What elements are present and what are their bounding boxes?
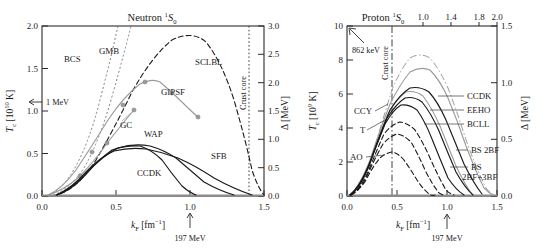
neutron-xtick-1: 0.5: [110, 202, 122, 212]
proton-ytick-right-0: 0.0: [501, 191, 513, 201]
curve-label-wap: WAP: [144, 129, 163, 139]
neutron-ytick-left-2: 1.0: [27, 106, 39, 116]
proton-ylabel-right: Δ [MeV]: [520, 96, 530, 130]
neutron-xaxis: 0.0 0.5 1.0 1.5: [36, 190, 270, 212]
curve-label-ao: AO: [350, 152, 363, 162]
neutron-ytick-left-1: 0.5: [27, 149, 39, 159]
neutron-xtick-0: 0.0: [36, 202, 48, 212]
gipsf-marker: [90, 150, 94, 154]
curve-label-gmb: GMB: [99, 46, 119, 56]
curve-gmb: [53, 26, 131, 195]
proton-left-label-group: CCY T AO: [350, 104, 388, 162]
proton-ytick-left-5: 10: [334, 21, 344, 31]
neutron-yaxis-right: 0.0 0.5 1.0 1.5 2.0 2.5 3.0: [258, 21, 280, 201]
gc-marker: [105, 141, 109, 145]
proton-toptick-0: 1.0: [417, 12, 429, 22]
neutron-ytick-left-4: 2.0: [27, 21, 39, 31]
curve-label-ccdk: CCDK: [137, 168, 162, 178]
proton-ytick-right-1: 0.5: [501, 134, 513, 144]
neutron-yaxis-left: 0.0 0.5 1.0 1.5 2.0: [27, 21, 48, 201]
neutron-ytick-right-2: 1.0: [268, 134, 280, 144]
proton-crust-core-label: Crust core: [381, 46, 390, 80]
proton-top-axis: 1.0 1.4 1.8 2.0: [417, 12, 503, 26]
curve-label-ccy: CCY: [354, 106, 373, 116]
proton-fermi-energy-label: 197 MeV: [431, 234, 462, 243]
neutron-ytick-left-0: 0.0: [27, 191, 39, 201]
proton-right-label-group: CCDK EEHO BCLL BS 2BF BS 2BF+3BF: [424, 91, 499, 182]
neutron-ytick-right-0: 0.0: [268, 191, 280, 201]
neutron-ylabel-right: Δ [MeV]: [280, 96, 290, 130]
proton-gap-energy-label: 862 keV: [352, 46, 380, 55]
curve-label-bcll: BCLL: [467, 119, 489, 129]
proton-ytick-right-3: 1.5: [501, 21, 513, 31]
neutron-ytick-left-3: 1.5: [27, 64, 39, 74]
neutron-crust-core-label: Crust core: [239, 76, 248, 110]
gipsf-marker: [196, 115, 200, 119]
proton-xtick-3: 1.5: [491, 202, 503, 212]
proton-plot-svg: Proton 1S0 1.0 1.4 1.8 2.0: [290, 0, 554, 249]
neutron-ytick-right-4: 2.0: [268, 78, 280, 88]
proton-ytick-right-2: 1.0: [501, 78, 513, 88]
curve-label-bs-2bf: BS 2BF: [471, 145, 499, 155]
proton-ytick-left-4: 8: [339, 55, 344, 65]
gipsf-marker: [121, 103, 125, 107]
proton-ylabel-left: Tc [109 K]: [306, 92, 320, 131]
curve-sclbl: [60, 35, 264, 195]
proton-panel-title: Proton 1S0: [362, 11, 405, 25]
neutron-ylabel-left: Tc [1010 K]: [3, 90, 17, 132]
neutron-xlabel: kF [fm−1]: [131, 218, 165, 232]
curve-label-gipsf: GIPSF: [161, 87, 185, 97]
curve-label-eeho: EEHO: [467, 105, 490, 115]
proton-ytick-left-2: 4: [339, 123, 344, 133]
proton-ytick-left-3: 6: [339, 89, 344, 99]
neutron-ytick-right-6: 3.0: [268, 21, 280, 31]
curve-label-gc: GC: [120, 120, 132, 130]
proton-xtick-0: 0.0: [341, 202, 353, 212]
neutron-one-mev-label: 1 MeV: [46, 98, 69, 107]
neutron-ytick-right-1: 0.5: [268, 163, 280, 173]
neutron-fermi-energy-label: 197 MeV: [174, 234, 205, 243]
proton-ytick-left-1: 2: [339, 157, 344, 167]
curve-label-sfb: SFB: [211, 151, 227, 161]
proton-yaxis-left: 0 2 4 6 8 10: [334, 21, 353, 201]
curve-label-bs-2bf3bf: 2BF+3BF: [462, 172, 497, 182]
proton-ytick-left-0: 0: [339, 191, 344, 201]
curve-bs-2bf3bf: [351, 134, 445, 195]
proton-toptick-2: 1.8: [473, 12, 485, 22]
curve-label-bcs: BCS: [64, 54, 81, 64]
gc-marker: [132, 108, 136, 112]
proton-fermi-marker: 197 MeV: [431, 214, 462, 243]
proton-gap-marker: 862 keV: [349, 28, 380, 55]
neutron-ytick-right-5: 2.5: [268, 49, 280, 59]
proton-panel: Proton 1S0 1.0 1.4 1.8 2.0: [290, 0, 554, 249]
gipsf-marker: [143, 80, 147, 84]
curve-label-ccdk-p: CCDK: [467, 91, 492, 101]
neutron-panel-title: Neutron 1S0: [128, 11, 178, 25]
curve-label-t: T: [360, 125, 366, 135]
neutron-fermi-marker: 197 MeV: [174, 213, 205, 243]
neutron-plot-svg: Neutron 1S0 0.0 0.5 1.0 1.5 2.0 Tc [1010…: [0, 0, 290, 249]
neutron-ytick-right-3: 1.5: [268, 106, 280, 116]
proton-xtick-2: 1.0: [441, 202, 453, 212]
proton-xtick-1: 0.5: [391, 202, 403, 212]
curve-label-bs: BS: [471, 162, 482, 172]
neutron-panel: Neutron 1S0 0.0 0.5 1.0 1.5 2.0 Tc [1010…: [0, 0, 290, 249]
proton-xaxis: 0.0 0.5 1.0 1.5: [341, 190, 503, 212]
curve-label-sclbl: SCLBL: [195, 57, 222, 67]
figure-root: Neutron 1S0 0.0 0.5 1.0 1.5 2.0 Tc [1010…: [0, 0, 554, 249]
curve-ccdk: [56, 146, 196, 195]
proton-toptick-1: 1.4: [445, 12, 457, 22]
proton-xlabel: kF [fm−1]: [396, 218, 430, 232]
neutron-xtick-3: 1.5: [258, 202, 270, 212]
neutron-xtick-2: 1.0: [184, 202, 196, 212]
